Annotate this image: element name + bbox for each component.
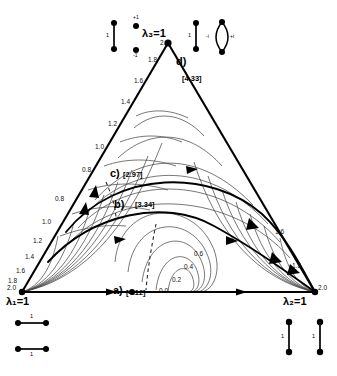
- inset-graph-bottom-right-b: [317, 319, 323, 355]
- ternary-diagram-svg: [0, 0, 337, 376]
- inset-graph-top-right-double-edge: [216, 19, 228, 55]
- tick-left-lower-3: 1.2: [33, 238, 42, 245]
- contour-label-0-4: 0.4: [184, 264, 193, 271]
- inset-graph-bottom-right-a: [286, 319, 292, 355]
- separatrix-curves: [48, 182, 315, 292]
- tick-left-lower-6: 1.8: [8, 278, 17, 285]
- critical-point-b-label: b): [114, 199, 124, 210]
- critical-point-c-value: [2.97]: [123, 171, 143, 179]
- tick-left-lower-2: 1.0: [42, 219, 51, 226]
- figure-canvas: λ₁=1 λ₂=1 λ₃=1 2.0 2.0 2.0 1.8 1.6 1.4 1…: [0, 0, 337, 376]
- tick-left-upper-4: 1.2: [108, 121, 117, 128]
- tick-left-lower-5: 1.6: [16, 268, 25, 275]
- tick-left-upper-3: 1.4: [121, 99, 130, 106]
- inset-weight-top-right-left: -i: [206, 34, 209, 39]
- corner-label-lambda2: λ₂=1: [283, 296, 307, 307]
- inset-weight-bottom-right-b: 1: [312, 334, 315, 340]
- inset-graph-bottom-left-a: [15, 320, 49, 326]
- tick-left-lower-4: 1.4: [25, 254, 34, 261]
- tick-left-upper-5: 1.0: [95, 144, 104, 151]
- contour-label-0-6: 0.6: [194, 251, 203, 258]
- corner-label-lambda1: λ₁=1: [6, 296, 29, 307]
- critical-point-c-label: c): [110, 168, 120, 179]
- inset-weight-top-left-node-top: +1: [133, 15, 139, 20]
- tick-left-upper-1: 1.8: [148, 57, 157, 64]
- inset-weight-top-right-right: +i: [230, 34, 234, 39]
- critical-point-d-value: [4.33]: [182, 75, 202, 83]
- inset-weight-bottom-left-b: 1: [30, 352, 33, 358]
- inset-weight-top-left-edge: 1: [106, 33, 109, 39]
- contour-label-0-2: 0.2: [172, 277, 181, 284]
- flow-arrowheads: [79, 166, 300, 296]
- inset-weight-bottom-left-a: 1: [30, 314, 33, 320]
- contour-lines: [22, 111, 315, 292]
- tick-bottom-left-corner: 2.0: [7, 285, 16, 292]
- inset-graph-top-left-edge: [111, 20, 117, 52]
- critical-point-a-label: a): [113, 285, 123, 296]
- inset-graph-top-left-nodes: [133, 23, 139, 53]
- tick-right-2: 1.8: [292, 263, 301, 270]
- tick-apex: 2.0: [160, 40, 169, 47]
- triangle-outline: [22, 43, 315, 292]
- tick-bottom-right-corner: 2.0: [318, 285, 327, 292]
- inset-graph-top-right-edge: [193, 20, 199, 52]
- critical-point-b-value: [3.34]: [135, 201, 155, 209]
- inset-weight-top-right-edge: 1: [188, 33, 191, 39]
- critical-point-a-value: [4.12]: [126, 289, 146, 297]
- inset-weight-bottom-right-a: 1: [281, 334, 284, 340]
- tick-left-upper-2: 1.6: [134, 78, 143, 85]
- inset-weight-top-left-node-bottom: -1: [133, 53, 137, 58]
- corner-label-lambda3: λ₃=1: [142, 28, 166, 39]
- contour-label-0-0: 0.0: [159, 288, 168, 295]
- separatrix-outer: [66, 182, 315, 292]
- tick-left-upper-6: 0.8: [82, 167, 91, 174]
- critical-point-d-label: d): [176, 56, 186, 67]
- tick-left-lower-1: 0.8: [55, 196, 64, 203]
- tick-right-1: 1.6: [275, 229, 284, 236]
